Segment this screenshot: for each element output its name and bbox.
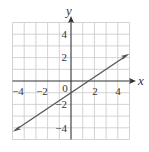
y-tick-label: −4 [55, 122, 67, 134]
x-tick-label: 2 [92, 85, 98, 97]
x-tick-labels: −4 −2 0 2 4 [12, 82, 121, 97]
y-axis-label: y [64, 3, 72, 18]
x-axis-label: x [137, 73, 144, 88]
coordinate-plane: x y −4 −2 0 2 4 4 2 −2 −4 [0, 0, 149, 152]
axes [13, 21, 132, 140]
x-tick-label: 4 [115, 85, 121, 97]
x-tick-label: −2 [36, 85, 48, 97]
x-tick-label: 0 [62, 82, 68, 94]
y-tick-label: 4 [62, 28, 68, 40]
x-tick-label: −4 [12, 85, 24, 97]
y-tick-label: 2 [62, 51, 68, 63]
